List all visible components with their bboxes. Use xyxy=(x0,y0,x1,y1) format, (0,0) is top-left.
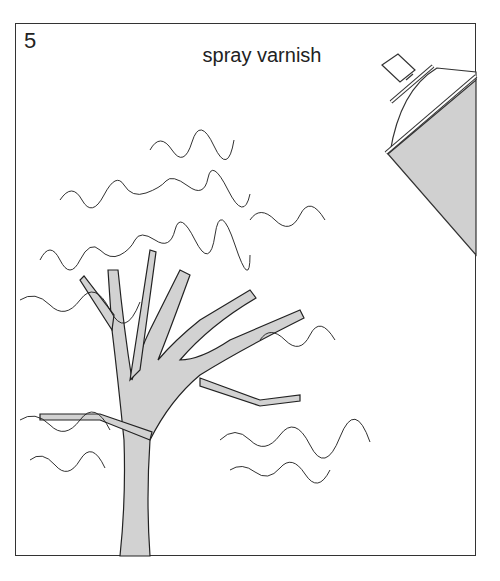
tree-illustration xyxy=(0,0,500,581)
spray-can-icon xyxy=(382,54,476,255)
tree-trunk xyxy=(40,250,304,556)
tree-foliage xyxy=(20,130,370,483)
